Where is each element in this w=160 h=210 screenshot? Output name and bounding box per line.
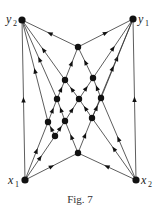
arrowhead-b-a	[69, 60, 75, 67]
node-f	[98, 95, 104, 101]
arrowhead-c-a	[82, 59, 88, 66]
node-k	[75, 150, 81, 156]
label-x1: x 1	[7, 173, 19, 189]
arrowhead-x1-y2	[21, 97, 26, 103]
node-h	[62, 118, 68, 124]
arrowhead-j-h	[57, 125, 64, 132]
arrowhead-d-y2	[36, 56, 42, 63]
arrowhead-i-e	[82, 105, 89, 112]
node-j	[52, 133, 58, 139]
node-g	[45, 119, 51, 125]
label-x2: x 2	[140, 173, 152, 189]
label-y1-main: y	[137, 12, 144, 26]
arrowhead-g-y2	[32, 68, 38, 74]
node-b	[62, 77, 68, 83]
label-x2-main: x	[140, 173, 147, 187]
arrowhead-e-c	[83, 85, 90, 92]
figure-caption: Fig. 7	[67, 193, 93, 205]
label-y1: y 1	[137, 12, 149, 28]
arrowhead-x1-g	[34, 147, 40, 154]
arrowhead-i-f	[93, 104, 99, 111]
node-e	[76, 96, 82, 102]
arrowhead-a-y1	[102, 30, 109, 36]
arrowhead-x1-k	[48, 163, 55, 169]
arrowhead-k-i	[82, 132, 88, 139]
arrowhead-i-y1	[110, 65, 116, 72]
node-d	[54, 96, 60, 102]
arrowhead-k-h	[68, 133, 74, 140]
arrowhead-d-b	[58, 86, 64, 93]
node-c	[90, 75, 96, 81]
arrowhead-x2-i	[110, 145, 117, 152]
node-x1	[21, 176, 28, 183]
label-y1-sub: 1	[145, 19, 149, 28]
directed-graph-diagram: y 2 y 1 x 1 x 2 Fig. 7	[0, 0, 160, 210]
arrowhead-j-g	[48, 125, 54, 132]
arrowhead-x2-f	[115, 135, 121, 142]
arrowhead-h-d	[58, 106, 64, 113]
arrowhead-x2-k	[103, 163, 110, 169]
arrowhead-f-c	[94, 84, 100, 91]
node-x2	[132, 176, 139, 183]
arrowhead-g-d	[50, 107, 56, 114]
label-y2: y 2	[5, 12, 17, 28]
label-x1-main: x	[7, 173, 14, 187]
label-y2-sub: 2	[13, 19, 17, 28]
arrowhead-c-y1	[110, 45, 117, 52]
node-i	[89, 115, 95, 121]
label-x2-sub: 2	[148, 180, 152, 189]
label-x1-sub: 1	[15, 180, 19, 189]
node-y2	[18, 16, 25, 23]
arrowhead-e-b	[68, 86, 75, 93]
arrowhead-a-y2	[46, 30, 53, 36]
label-y2-main: y	[5, 12, 12, 26]
arrowhead-x1-j	[37, 154, 44, 161]
arrowhead-h-e	[69, 106, 76, 113]
node-a	[75, 44, 81, 50]
node-y1	[129, 15, 136, 22]
arrowhead-x2-y1	[132, 96, 137, 102]
arrowhead-b-y2	[40, 46, 47, 53]
